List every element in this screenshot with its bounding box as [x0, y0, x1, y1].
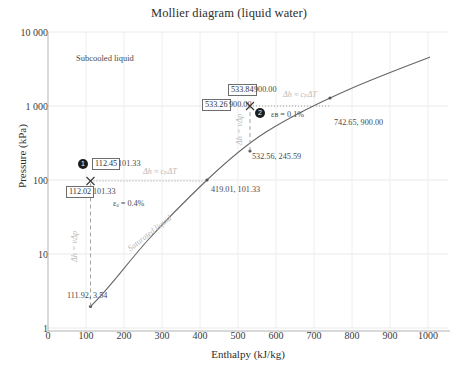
- state-point-1-approx-enthalpy-boxed: 112.02: [66, 186, 94, 198]
- subcooled-liquid-region-label: Subcooled liquid: [76, 53, 134, 63]
- data-label-saturation-point-low: 111.92, 3.54: [67, 291, 107, 300]
- delta-h-cp-dt-upper-label: Δh ≈ cₚΔT: [283, 89, 317, 99]
- state-point-2-badge: 2: [255, 108, 265, 118]
- state-point-1-exact-enthalpy-boxed: 112.45: [92, 158, 120, 170]
- state-point-1-error: εₐ = 0.4%: [113, 199, 144, 208]
- data-label-saturation-point-upper: 532.56, 245.59: [252, 152, 301, 161]
- state-point-2-approx-pressure: 900.00: [229, 100, 252, 109]
- gridlines: [48, 32, 448, 328]
- mollier-diagram-figure: Mollier diagram (liquid water) Pressure …: [0, 0, 458, 371]
- delta-h-v-dp-upper-label: Δh = vΔp: [235, 114, 244, 145]
- saturated-liquid-curve: [91, 57, 431, 307]
- state-point-2-exact-enthalpy-boxed: 533.84: [228, 84, 257, 96]
- state-point-2-approx-enthalpy-boxed: 533.26: [202, 99, 231, 111]
- delta-h-cp-dt-lower-label: Δh ≈ cₚΔT: [143, 166, 177, 176]
- data-label-saturation-point-high: 742.65, 900.00: [334, 118, 383, 127]
- state-point-1-approx-pressure: 101.33: [93, 187, 116, 196]
- delta-h-v-dp-lower-label: Δh = vΔp: [70, 231, 79, 262]
- data-label-saturation-point-mid: 419.01, 101.33: [211, 185, 260, 194]
- state-point-1-exact-pressure: 101.33: [118, 159, 141, 168]
- state-point-2-error: εʙ = 0.1%: [271, 110, 304, 119]
- state-point-1-badge: 1: [78, 159, 88, 169]
- state-point-2-exact-pressure: 900.00: [254, 85, 277, 94]
